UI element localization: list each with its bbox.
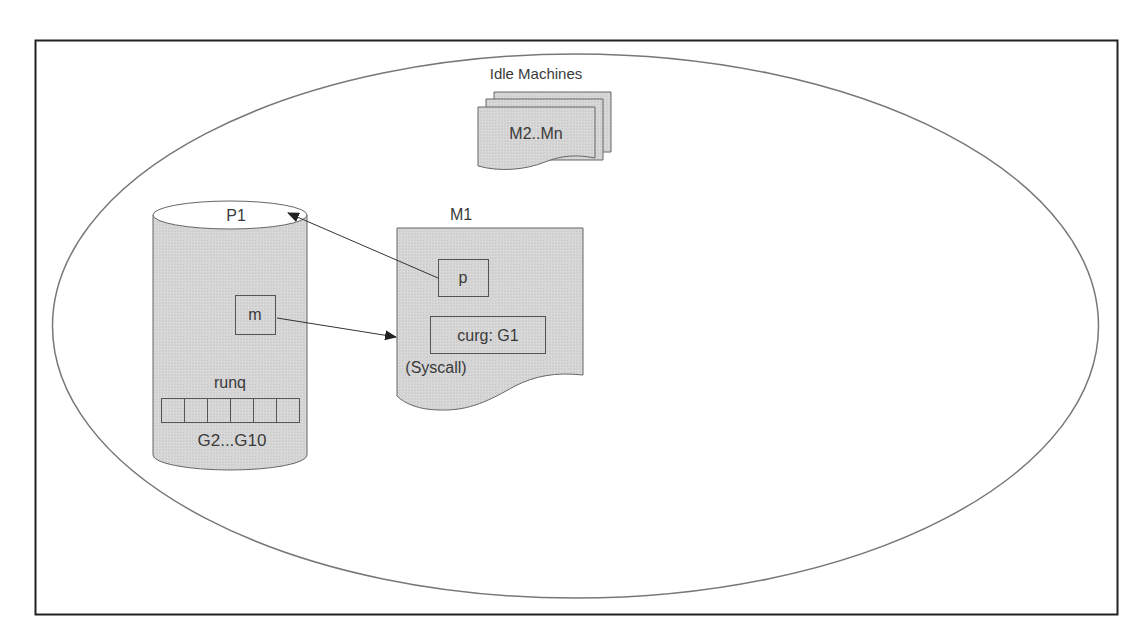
m-field-label: m xyxy=(248,306,261,323)
processor-p1: P1 m runq G2...G10 xyxy=(153,201,307,470)
diagram-canvas: Idle Machines M2..Mn P1 m runq G2...G10 … xyxy=(0,0,1144,633)
runq-label: runq xyxy=(214,374,246,391)
machine-title: M1 xyxy=(450,206,472,223)
goroutines-label: G2...G10 xyxy=(198,431,267,450)
idle-machines-stack-label: M2..Mn xyxy=(509,125,562,142)
p-field-label: p xyxy=(459,269,468,286)
processor-title: P1 xyxy=(226,207,246,224)
machine-state-label: (Syscall) xyxy=(405,359,466,376)
curg-field-label: curg: G1 xyxy=(457,327,518,344)
idle-machines-title: Idle Machines xyxy=(490,65,583,82)
